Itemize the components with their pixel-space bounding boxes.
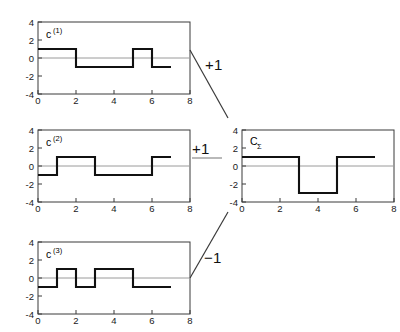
- weight-label-c1: +1: [205, 56, 223, 73]
- signal-combination-figure: 0 2 4 6 8 4 2 0 -2 -4 c (1): [0, 0, 400, 332]
- weight-label-c2: +1: [192, 140, 210, 157]
- connector-lines: [0, 0, 400, 332]
- connector-line-c3: [190, 212, 228, 278]
- weight-label-c3: −1: [204, 249, 222, 266]
